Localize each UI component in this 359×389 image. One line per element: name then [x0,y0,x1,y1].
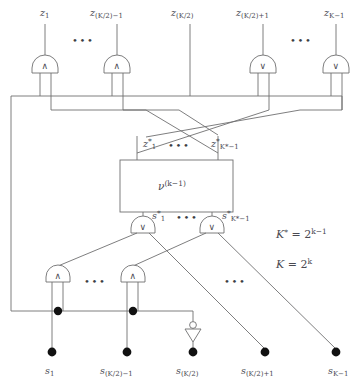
output-label-s1: s1 [45,366,54,378]
output-label-sk2m1: s(K/2)−1 [100,366,133,378]
eq-op: = [288,228,304,241]
signal-label-z-star-kstar-m1: z*K*−1 [211,138,239,151]
and-symbol-icon: ∧ [130,272,137,281]
signal-sub: K*−1 [220,143,239,151]
eq-op: = [284,258,300,271]
module-box-label: ν(k−1) [158,180,186,192]
ellipsis-top-right: ••• [290,36,313,46]
ellipsis-s-star: ••• [176,213,199,223]
ellipsis-bottom-right: ••• [224,277,247,287]
signal-sub: K*−1 [231,215,250,223]
output-sub: (K/2)+1 [246,370,274,378]
ellipsis-bottom-left: ••• [84,277,107,287]
ellipsis-z-star: ••• [168,141,191,151]
signal-label-s-star-1: s*1 [152,210,165,223]
input-label-zk2m1: z(K/2)−1 [90,8,123,20]
output-sub: (K/2) [181,370,199,378]
input-label-z1: z1 [40,8,49,20]
and-symbol-icon: ∧ [55,272,62,281]
or-symbol-icon: ∨ [260,62,267,71]
or-symbol-icon: ∨ [140,223,147,232]
eq-lhs: K [276,258,284,271]
output-terminal-dots [48,348,341,357]
input-label-zk2: z(K/2) [171,8,194,20]
top-gate-row [32,55,349,73]
equation-k-star: K* = 2k−1 [276,228,327,240]
circuit-svg [0,0,359,389]
eq-exp: k [307,257,312,266]
or-symbol-icon: ∨ [333,62,340,71]
circuit-diagram: ∧ ∧ ∨ ∨ ∨ ∨ ∧ ∧ z1 z(K/2)−1 z(K/2) z(K/2… [0,0,359,389]
bottom-gate-output-stems [52,282,138,349]
input-sub: (K/2)+1 [241,12,269,20]
output-sub: K−1 [333,370,349,378]
input-sub: K−1 [329,12,345,20]
output-sub: (K/2)−1 [105,370,133,378]
input-label-zk2p1: z(K/2)+1 [236,8,269,20]
signal-label-z-star-1: z*1 [143,138,156,151]
output-label-sk2: s(K/2) [176,366,198,378]
input-sub: (K/2) [176,12,194,20]
output-sub: 1 [50,370,54,378]
output-label-skm1: sK−1 [328,366,348,378]
output-label-sk2p1: s(K/2)+1 [241,366,274,378]
top-gate-output-stems [40,73,342,110]
eq-exp: k−1 [311,227,327,236]
equation-k: K = 2k [276,258,312,270]
eq-lhs: K [276,228,284,241]
input-sub: (K/2)−1 [95,12,123,20]
bottom-horizontal-bus [11,311,193,322]
signal-sub: 1 [152,143,156,151]
signal-label-s-star-kstar-m1: s*K*−1 [222,210,250,223]
input-label-zkm1: zK−1 [324,8,345,20]
module-label-sup: (k−1) [164,179,185,188]
not-gate-shape [185,322,201,349]
and-symbol-icon: ∧ [114,62,121,71]
input-sub: 1 [45,12,49,20]
ellipsis-top-left: ••• [72,36,95,46]
and-symbol-icon: ∧ [42,62,49,71]
or-symbol-icon: ∨ [209,223,216,232]
signal-sub: 1 [161,215,165,223]
crossbar-routing [51,110,342,153]
